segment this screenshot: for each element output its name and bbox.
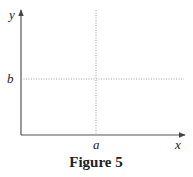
y-marker-label: b: [7, 71, 14, 86]
x-axis-label: x: [174, 137, 181, 152]
x-marker-label: a: [93, 137, 100, 152]
figure-caption: Figure 5: [69, 154, 122, 170]
figure-diagram: y b a x Figure 5: [0, 0, 193, 177]
y-axis-label: y: [7, 7, 15, 22]
